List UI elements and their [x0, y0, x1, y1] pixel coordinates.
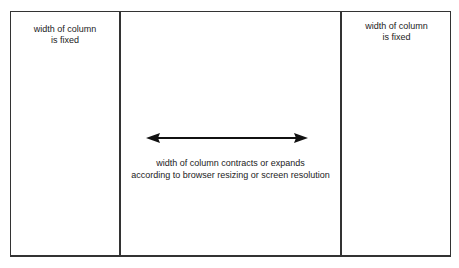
center-column-label: width of column contracts or expands acc…	[121, 157, 340, 181]
center-column-label-line1: width of column contracts or expands	[121, 157, 340, 169]
left-column-label-line2: is fixed	[11, 35, 119, 46]
left-column-label: width of column is fixed	[11, 24, 119, 46]
center-column-label-line2: according to browser resizing or screen …	[121, 169, 340, 181]
right-column-label: width of column is fixed	[342, 21, 451, 43]
left-column-divider	[119, 11, 121, 257]
left-column-label-line1: width of column	[11, 24, 119, 35]
double-arrow-icon	[146, 132, 308, 144]
right-column-divider	[340, 11, 342, 257]
right-column-label-line2: is fixed	[342, 32, 451, 43]
right-column-label-line1: width of column	[342, 21, 451, 32]
